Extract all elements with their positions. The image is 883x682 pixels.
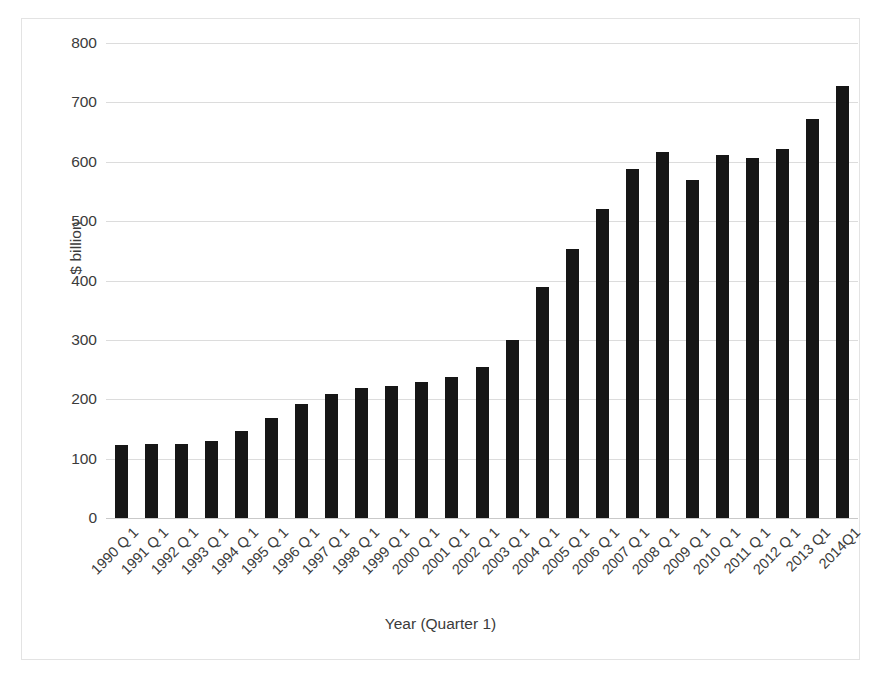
bar (686, 180, 699, 518)
y-tick-label: 0 (88, 509, 97, 527)
bar (626, 169, 639, 518)
bar (265, 418, 278, 518)
bar (145, 444, 158, 518)
chart-frame: $ billion 8007006005004003002001000 1990… (21, 18, 860, 660)
bar (776, 149, 789, 518)
bar (175, 444, 188, 518)
x-axis-tick-labels: 1990 Q 11991 Q 11992 Q 11993 Q 11994 Q 1… (106, 524, 858, 619)
bar (325, 394, 338, 518)
bar (445, 377, 458, 518)
gridline (106, 518, 858, 519)
bar-series (106, 43, 858, 518)
bar (205, 441, 218, 518)
bar (476, 367, 489, 518)
bar (235, 431, 248, 518)
y-tick-label: 500 (71, 212, 97, 230)
bar (536, 287, 549, 518)
bar (656, 152, 669, 518)
bar (415, 382, 428, 518)
plot-area: 8007006005004003002001000 (106, 43, 858, 518)
y-tick-label: 700 (71, 93, 97, 111)
bar (596, 209, 609, 518)
bar (836, 86, 849, 518)
y-tick-label: 200 (71, 390, 97, 408)
y-tick-label: 600 (71, 153, 97, 171)
bar (355, 388, 368, 518)
bar (716, 155, 729, 518)
bar (385, 386, 398, 518)
y-tick-label: 300 (71, 331, 97, 349)
x-axis-title: Year (Quarter 1) (22, 615, 859, 633)
y-tick-label: 400 (71, 272, 97, 290)
bar (746, 158, 759, 518)
bar (566, 249, 579, 518)
y-tick-label: 100 (71, 450, 97, 468)
y-axis-title: $ billion (67, 188, 85, 308)
bar (295, 404, 308, 518)
y-tick-label: 800 (71, 34, 97, 52)
bar (115, 445, 128, 518)
bar (506, 340, 519, 518)
bar (806, 119, 819, 518)
